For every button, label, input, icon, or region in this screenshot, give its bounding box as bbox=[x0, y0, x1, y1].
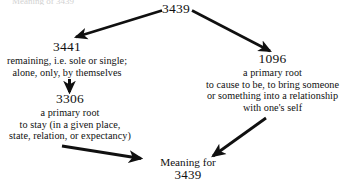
node-3441-gloss: remaining, i.e. sole or single; alone, o… bbox=[0, 55, 146, 78]
node-root-label: 3439 bbox=[141, 2, 211, 17]
arrow-3306-to-meaning bbox=[62, 146, 141, 159]
node-3306-gloss-line-3: state, relation, or expectancy) bbox=[0, 130, 148, 141]
node-3306-gloss-line-1: a primary root bbox=[0, 107, 148, 118]
node-3441: 3441 remaining, i.e. sole or single; alo… bbox=[0, 40, 146, 78]
node-1096-label: 1096 bbox=[190, 52, 355, 67]
node-root-3439: 3439 bbox=[141, 2, 211, 17]
node-3306-gloss-line-2: to stay (in a given place, bbox=[0, 119, 148, 130]
cropped-header-text-fragment: Meaning of 3439 bbox=[12, 0, 94, 5]
node-3441-gloss-line-1: remaining, i.e. sole or single; bbox=[0, 55, 146, 66]
node-3306-label: 3306 bbox=[0, 92, 148, 107]
node-3306: 3306 a primary root to stay (in a given … bbox=[0, 92, 148, 141]
node-3441-gloss-line-2: alone, only, by themselves bbox=[0, 67, 146, 78]
node-3441-label: 3441 bbox=[0, 40, 146, 55]
node-1096-gloss-line-4: with one's self bbox=[190, 102, 355, 113]
node-1096-gloss-line-2: to cause to be, to bring someone bbox=[190, 79, 355, 90]
diagram-canvas: Meaning of 3439 3439 3441 remaining, i.e… bbox=[0, 0, 357, 184]
node-3306-gloss: a primary root to stay (in a given place… bbox=[0, 107, 148, 141]
node-meaning-for-3439: Meaning for 3439 bbox=[138, 156, 238, 182]
node-1096-gloss-line-1: a primary root bbox=[190, 67, 355, 78]
node-meaning-number: 3439 bbox=[138, 168, 238, 182]
node-1096-gloss-line-3: or something into a relationship bbox=[190, 90, 355, 101]
node-1096: 1096 a primary root to cause to be, to b… bbox=[190, 52, 355, 113]
node-1096-gloss: a primary root to cause to be, to bring … bbox=[190, 67, 355, 113]
arrow-1096-to-meaning bbox=[213, 118, 266, 156]
